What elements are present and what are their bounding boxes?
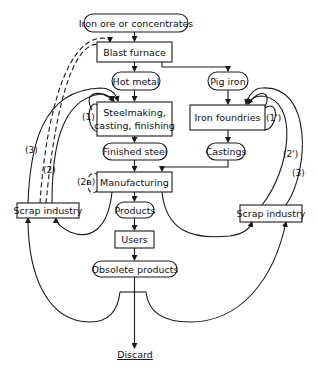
loop-label-2a: (2a) xyxy=(77,177,95,187)
node-label: Pig iron xyxy=(210,76,245,87)
node-obsolete-products: Obsolete products xyxy=(92,261,179,277)
node-label: Users xyxy=(121,234,148,245)
node-discard: Discard xyxy=(117,349,153,360)
node-label-line1: Steelmaking, xyxy=(103,107,165,118)
node-users: Users xyxy=(115,231,154,248)
node-label: Iron foundries xyxy=(195,112,261,123)
loop-label-2-prime: (2') xyxy=(283,149,298,159)
loop-label-1-prime: (1') xyxy=(266,113,281,123)
flow-diagram: Iron ore or concentrates Blast furnace H… xyxy=(0,0,318,370)
node-label: Products xyxy=(114,205,155,216)
loop-label-3-left: (3) xyxy=(25,145,38,155)
node-label: Obsolete products xyxy=(92,264,179,275)
node-label: Scrap industry xyxy=(14,205,83,216)
node-manufacturing: Manufacturing xyxy=(97,172,172,192)
node-label-line2: casting, finishing xyxy=(94,120,175,131)
node-scrap-industry-left: Scrap industry xyxy=(14,203,83,218)
node-pig-iron: Pig iron xyxy=(208,72,248,90)
loop-label-3-right: (3) xyxy=(292,168,305,178)
node-steelmaking: Steelmaking, casting, finishing xyxy=(94,102,175,136)
node-label: Manufacturing xyxy=(100,177,169,188)
node-label: Castings xyxy=(206,146,247,157)
node-label: Hot metal xyxy=(113,76,160,87)
node-blast-furnace: Blast furnace xyxy=(97,42,172,62)
node-castings: Castings xyxy=(206,143,247,160)
node-iron-foundries: Iron foundries xyxy=(190,105,265,130)
node-label: Finished steel xyxy=(103,146,168,157)
node-iron-ore: Iron ore or concentrates xyxy=(79,14,194,32)
node-label: Scrap industry xyxy=(237,208,306,219)
node-label: Iron ore or concentrates xyxy=(79,18,194,29)
node-hot-metal: Hot metal xyxy=(112,72,160,90)
loop-label-1: (1) xyxy=(82,112,95,122)
node-finished-steel: Finished steel xyxy=(103,143,168,160)
node-products: Products xyxy=(114,202,155,218)
node-label: Discard xyxy=(117,349,153,360)
loop-label-2: (2) xyxy=(43,165,56,175)
node-scrap-industry-right: Scrap industry xyxy=(237,205,306,222)
node-label: Blast furnace xyxy=(103,47,166,58)
